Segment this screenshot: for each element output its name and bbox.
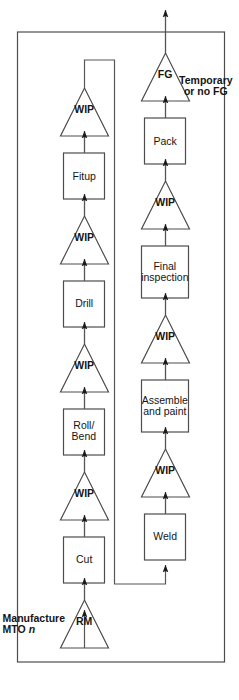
node-fg — [141, 53, 189, 101]
node-wip-4 — [60, 88, 108, 136]
node-wip-7 — [141, 181, 189, 229]
node-wip-3 — [60, 216, 108, 264]
diagram-canvas: Manufacture MTO n Temporary or no FG RM … — [0, 0, 239, 700]
diagram-page: Manufacture MTO n Temporary or no FG RM … — [0, 0, 239, 700]
node-wip-2 — [60, 344, 108, 392]
node-final-inspection — [141, 246, 188, 298]
node-fitup — [63, 153, 104, 199]
node-roll-bend — [63, 409, 104, 455]
node-cut — [63, 537, 104, 583]
node-drill — [63, 281, 104, 327]
diagram-lines — [0, 0, 239, 700]
node-weld — [144, 514, 185, 560]
node-assemble-and-paint — [141, 380, 188, 432]
node-wip-1 — [60, 472, 108, 520]
node-pack — [144, 118, 185, 164]
node-wip-6 — [141, 315, 189, 363]
boundary-box — [17, 32, 224, 662]
node-wip-5 — [141, 449, 189, 497]
